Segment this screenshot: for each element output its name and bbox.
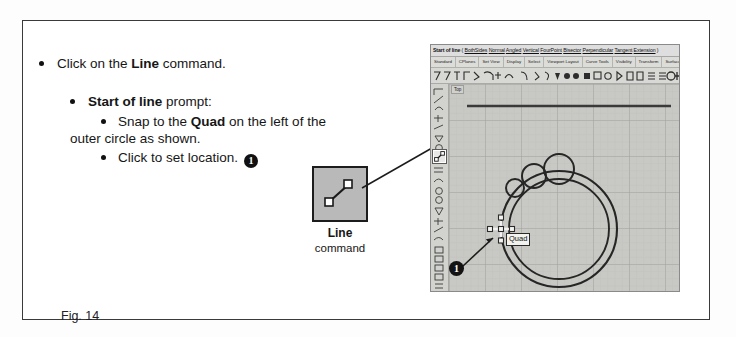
command-option-perpendicular[interactable]: Perpendicular — [583, 47, 614, 53]
step-2a-text-after: on the left of the — [225, 114, 326, 129]
side-toolbar[interactable] — [431, 84, 449, 292]
command-option-bisector[interactable]: Bisector — [563, 47, 581, 53]
toolbar-icon-strip — [431, 68, 679, 83]
command-option-angled[interactable]: Angled — [506, 47, 522, 53]
step-2b-text: Click to set location. — [118, 150, 238, 165]
toolbar-tab-visibility[interactable]: Visibility — [613, 57, 636, 67]
step-1-text-after: command. — [159, 56, 226, 71]
bullet-icon — [39, 61, 44, 66]
step-2a-text-before: Snap to the — [118, 114, 191, 129]
step-2-text-after: prompt: — [162, 94, 212, 109]
command-option-fourpoint[interactable]: FourPoint — [540, 47, 562, 53]
instruction-list: Click on the Line command. Start of line… — [39, 55, 359, 168]
top-viewport[interactable]: Top — [449, 84, 679, 292]
toolbar-tab-select[interactable]: Select — [525, 57, 544, 67]
toolbar-tab-display[interactable]: Display — [504, 57, 525, 67]
line-tool-button-highlighted[interactable] — [432, 149, 447, 164]
step-marker-badge-1: 1 — [244, 154, 258, 168]
rhino-application-screenshot: Start of line ( BothSides Normal Angled … — [430, 44, 680, 292]
line-command-callout-box — [312, 166, 368, 222]
toolbar-tab-curve-tools[interactable]: Curve Tools — [583, 57, 613, 67]
figure-page: Click on the Line command. Start of line… — [0, 0, 736, 337]
step-2a-bold: Quad — [191, 114, 226, 129]
toolbar-tab-viewport-layout[interactable]: Viewport Layout — [544, 57, 582, 67]
bullet-icon — [70, 99, 75, 104]
viewport-area: Top — [431, 84, 679, 292]
command-option-vertical[interactable]: Vertical — [523, 47, 539, 53]
line-command-caption: Line command — [296, 226, 384, 255]
side-toolbar-icon-strip — [431, 84, 448, 292]
command-option-extension[interactable]: Extension — [634, 47, 656, 53]
osnap-tooltip-quad: Quad — [506, 233, 530, 246]
toolbar-tab-set-view[interactable]: Set View — [479, 57, 503, 67]
toolbar-tab-cplanes[interactable]: CPlanes — [456, 57, 480, 67]
bullet-icon — [101, 119, 106, 124]
line-caption-title: Line — [296, 226, 384, 241]
instruction-step-2: Start of line prompt: — [70, 93, 359, 111]
viewport-label-top[interactable]: Top — [451, 85, 464, 94]
main-toolbar-icons[interactable] — [431, 68, 679, 84]
command-option-bothsides[interactable]: BothSides — [465, 47, 488, 53]
figure-caption: Fig. 14 — [61, 309, 99, 323]
instruction-step-2a: Snap to the Quad on the left of the — [101, 113, 359, 131]
toolbar-tabs: Standard CPlanes Set View Display Select… — [431, 57, 679, 68]
command-paren-open: ( — [460, 47, 463, 53]
line-tool-icon — [314, 168, 366, 220]
command-option-normal[interactable]: Normal — [489, 47, 505, 53]
line-caption-subtitle: command — [296, 241, 384, 255]
command-prompt-label: Start of line — [433, 47, 460, 53]
step-2a-continuation: outer circle as shown. — [70, 130, 359, 148]
viewport-step-marker-1: 1 — [449, 261, 464, 276]
step-1-text-before: Click on the — [57, 56, 131, 71]
toolbar-tab-surface-tools[interactable]: Surface Tools — [662, 57, 679, 67]
command-bar[interactable]: Start of line ( BothSides Normal Angled … — [431, 45, 679, 57]
instruction-step-1: Click on the Line command. — [39, 55, 359, 73]
command-option-tangent[interactable]: Tangent — [615, 47, 633, 53]
step-1-bold: Line — [131, 56, 159, 71]
step-2-bold: Start of line — [88, 94, 162, 109]
command-paren-close: ) — [656, 47, 659, 53]
toolbar-tab-transform[interactable]: Transform — [636, 57, 663, 67]
line-tool-icon — [433, 150, 446, 163]
bullet-icon — [101, 155, 106, 160]
toolbar-tab-standard[interactable]: Standard — [431, 57, 456, 67]
viewport-canvas — [449, 84, 679, 292]
